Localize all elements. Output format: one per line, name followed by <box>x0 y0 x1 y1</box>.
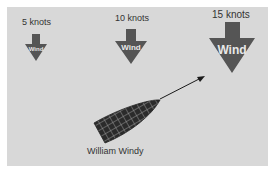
wind-arrow-icon-medium: Wind <box>115 29 147 64</box>
wind-arrow-icon-small: Wind <box>25 34 47 61</box>
wind-arrow-label: Wind <box>121 43 141 52</box>
wind-arrow-icon-large: Wind <box>209 22 255 73</box>
boat-icon <box>94 100 160 143</box>
wind-arrow-label: Wind <box>29 46 44 52</box>
wind-arrow-label: Wind <box>217 43 246 57</box>
boat-name-label: William Windy <box>87 146 144 156</box>
heading-arrow-icon <box>160 76 205 99</box>
